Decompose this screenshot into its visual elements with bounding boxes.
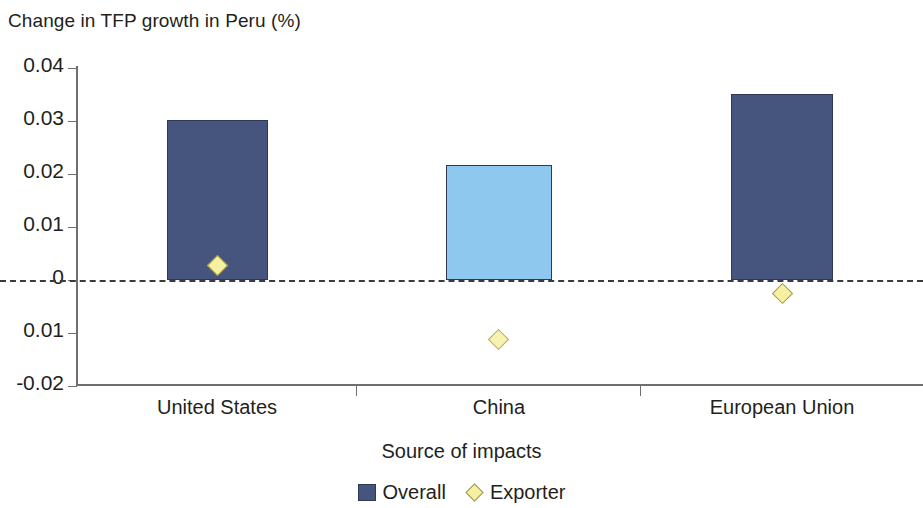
- y-axis-tick-label-text: -0.02: [16, 371, 64, 395]
- y-axis-tick-mark: [68, 333, 77, 334]
- legend-item-overall: Overall: [358, 481, 446, 504]
- category-separator: [356, 385, 357, 396]
- y-axis-tick-label-text: 0: [52, 265, 64, 289]
- category-separator: [640, 385, 641, 396]
- legend-item-exporter: Exporter: [466, 481, 566, 504]
- chart-title: Change in TFP growth in Peru (%): [8, 10, 301, 32]
- chart-legend: OverallExporter: [0, 481, 923, 504]
- exporter-marker-european-union: [771, 283, 792, 304]
- y-axis-tick-label-text: 0.01: [23, 212, 64, 236]
- y-axis-tick-label-text: 0.04: [23, 53, 64, 77]
- y-axis-tick-mark: [68, 121, 77, 122]
- x-axis-tick-label-china: China: [359, 396, 639, 419]
- y-axis-tick-label-text: 0.03: [23, 106, 64, 130]
- bar-china: [446, 165, 552, 280]
- y-axis-tick-mark: [68, 174, 77, 175]
- legend-swatch-square-icon: [358, 484, 376, 501]
- legend-label: Exporter: [490, 481, 566, 504]
- x-axis-tick-label-european-union: European Union: [642, 396, 922, 419]
- x-axis-line: [77, 384, 923, 386]
- exporter-marker-china: [487, 329, 508, 350]
- y-axis-tick-mark: [68, 227, 77, 228]
- legend-label: Overall: [383, 481, 446, 504]
- bar-european-union: [731, 94, 833, 280]
- legend-swatch-diamond-icon: [465, 483, 483, 501]
- y-axis-line: [76, 66, 78, 386]
- chart-container: Change in TFP growth in Peru (%) 0.040.0…: [0, 0, 923, 508]
- x-axis-title: Source of impacts: [0, 440, 923, 463]
- zero-reference-line: [0, 280, 923, 282]
- y-axis-tick-mark: [68, 68, 77, 69]
- x-axis-tick-label-united-states: United States: [77, 396, 357, 419]
- y-axis-tick-label-text: 0.02: [23, 159, 64, 183]
- y-axis-tick-mark: [68, 386, 77, 387]
- y-axis-tick-label-text: 0.01: [23, 318, 64, 342]
